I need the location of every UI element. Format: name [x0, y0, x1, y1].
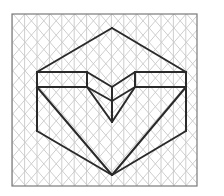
- isometric-drawing-svg: [0, 0, 224, 196]
- isometric-figure: [0, 0, 224, 196]
